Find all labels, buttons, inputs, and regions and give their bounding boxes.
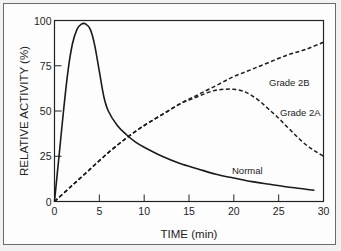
- x-tick-label: 20: [228, 205, 240, 217]
- x-tick-label: 15: [183, 205, 195, 217]
- series-label-grade-2b: Grade 2B: [269, 77, 310, 88]
- x-tick-label: 30: [318, 205, 330, 217]
- y-tick-label: 75: [40, 60, 52, 72]
- x-tick-label: 0: [52, 205, 58, 217]
- x-axis-ticks: 051015202530: [52, 195, 330, 217]
- series-label-normal: Normal: [232, 165, 263, 176]
- series-normal: [55, 23, 315, 201]
- x-tick-label: 5: [96, 205, 102, 217]
- x-axis-title: TIME (min): [161, 228, 218, 240]
- series-grade-2a: [55, 89, 324, 201]
- chart: 0255075100 051015202530 TIME (min) RELAT…: [0, 0, 341, 251]
- y-tick-label: 50: [40, 105, 52, 117]
- y-tick-label: 100: [34, 15, 52, 27]
- series-label-grade-2a: Grade 2A: [280, 107, 321, 118]
- x-tick-label: 10: [138, 205, 150, 217]
- y-axis-title: RELATIVE ACTIVITY (%): [18, 46, 30, 176]
- x-tick-label: 25: [273, 205, 285, 217]
- y-tick-label: 25: [40, 150, 52, 162]
